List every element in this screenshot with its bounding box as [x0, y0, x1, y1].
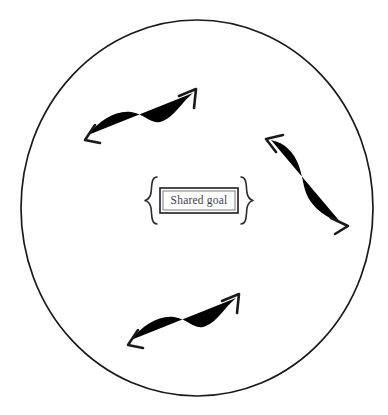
arrow-right-shaft	[271, 140, 342, 224]
arrow-right-head-end	[331, 218, 348, 234]
arrow-bottom-left-shaft	[131, 298, 236, 340]
arrow-top-left-shaft	[88, 93, 193, 135]
arrow-bottom-left	[128, 294, 239, 348]
arrow-top-left	[85, 89, 196, 143]
center-node-group: Shared goal	[145, 177, 253, 224]
arrow-right	[266, 135, 348, 234]
diagram-canvas: Shared goal	[0, 0, 388, 415]
left-curly-brace	[145, 177, 157, 224]
diagram-root: Shared goal	[0, 0, 388, 415]
right-curly-brace	[241, 177, 253, 224]
shared-goal-label: Shared goal	[171, 194, 228, 207]
